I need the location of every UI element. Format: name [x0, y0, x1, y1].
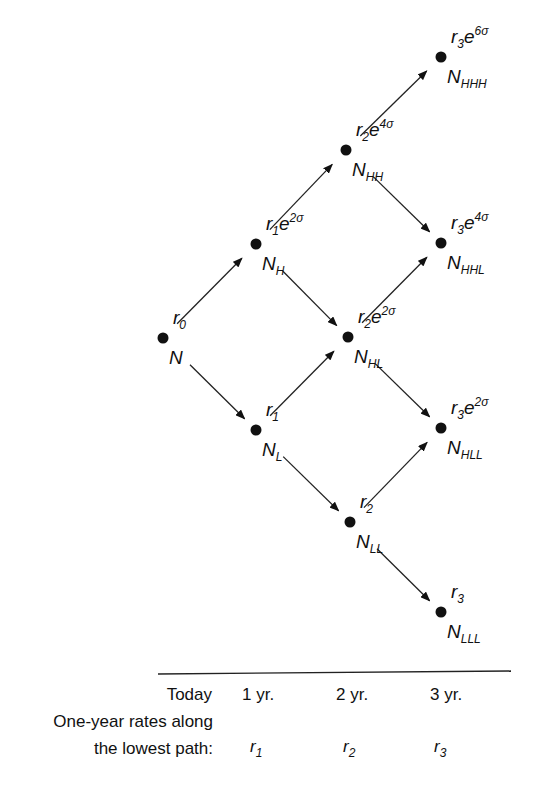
node-dot-NHL	[343, 332, 354, 343]
period-2yr: 2 yr.	[336, 686, 368, 703]
arrow-NHH-NHHL	[373, 177, 429, 232]
value-label-NL: NL	[262, 440, 282, 459]
node-dot-NLLL	[436, 607, 447, 618]
arrow-NH-NHL	[283, 271, 337, 326]
tree-edges	[177, 71, 430, 601]
node-dot-NLL	[345, 517, 356, 528]
rate-label-NHH: r2e4σ	[356, 120, 394, 139]
rate-label-NL: r1	[266, 400, 279, 419]
arrow-NHL-NHLL	[375, 364, 429, 417]
node-dot-NHHL	[436, 238, 447, 249]
node-dot-NHH	[341, 145, 352, 156]
rate-label-N: r0	[173, 308, 186, 327]
arrow-N-NL	[190, 365, 245, 419]
period-today: Today	[130, 686, 212, 703]
lowest-rate-2: r2	[343, 738, 355, 755]
lowest-rate-3: r3	[434, 738, 446, 755]
value-label-NLL: NLL	[356, 532, 383, 551]
rate-label-NHHH: r3e6σ	[451, 27, 489, 46]
value-label-NHHH: NHHH	[447, 67, 487, 86]
arrow-NLL-NHLL	[364, 442, 427, 507]
rate-label-NHL: r2e2σ	[358, 307, 396, 326]
timeline-rule	[158, 671, 511, 674]
value-label-NLLL: NLLL	[447, 622, 481, 641]
rate-label-NLLL: r3	[451, 582, 464, 601]
node-dot-NH	[251, 239, 262, 250]
node-dot-NL	[251, 425, 262, 436]
tree-nodes	[158, 52, 447, 618]
node-dot-NHHH	[436, 52, 447, 63]
rate-label-NH: r1e2σ	[266, 214, 304, 233]
value-label-NH: NH	[262, 254, 284, 273]
period-3yr: 3 yr.	[430, 686, 462, 703]
value-label-NHH: NHH	[352, 160, 383, 179]
arrow-NL-NLL	[283, 457, 338, 511]
value-label-NHHL: NHHL	[447, 253, 485, 272]
arrow-NL-NHL	[270, 351, 334, 416]
rate-label-NLL: r2	[360, 492, 373, 511]
arrow-N-NH	[177, 258, 242, 324]
value-label-NHL: NHL	[354, 347, 383, 366]
value-label-NHLL: NHLL	[447, 438, 483, 457]
rate-label-NHLL: r3e2σ	[451, 398, 489, 417]
arrow-NLL-NLLL	[377, 549, 430, 601]
node-dot-NHLL	[436, 423, 447, 434]
value-label-N: N	[169, 348, 183, 367]
node-dot-N	[158, 333, 169, 344]
rate-label-NHHL: r3e4σ	[451, 213, 489, 232]
lowest-path-label-line2: the lowest path:	[0, 740, 213, 757]
lowest-path-label-line1: One-year rates along	[0, 713, 213, 730]
lowest-rate-1: r1	[250, 738, 262, 755]
period-1yr: 1 yr.	[242, 686, 274, 703]
